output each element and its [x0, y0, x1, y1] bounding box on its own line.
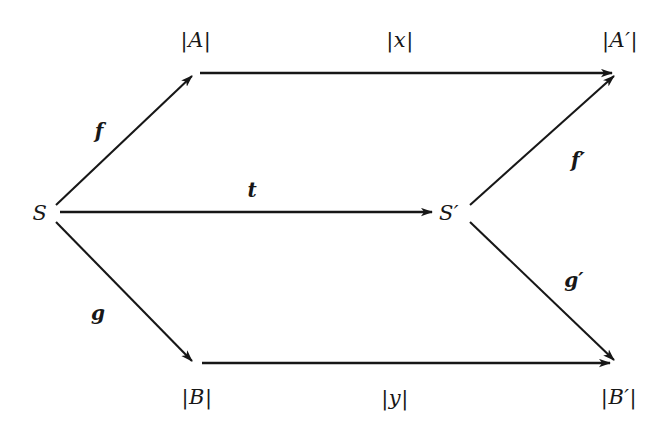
node-B: |B| [181, 387, 212, 408]
node-B-prime: |B′| [601, 387, 637, 408]
edge-label-x: |x| [386, 30, 414, 51]
node-A-prime: |A′| [602, 30, 638, 51]
edge-label-f-prime: f′ [571, 150, 585, 170]
edge-label-f: f [95, 121, 104, 141]
commutative-diagram: S |A| |B| S′ |A′| |B′| f t g |x| |y| f′ … [0, 0, 668, 435]
diagram-edges-layer [0, 0, 668, 435]
edge-label-t: t [247, 180, 256, 200]
edge-g-arrow [56, 222, 192, 361]
edge-f-prime-arrow [470, 76, 614, 205]
node-S: S [33, 203, 48, 224]
edge-f-arrow [56, 76, 192, 205]
edge-label-y: |y| [381, 388, 409, 409]
edge-label-g-prime: g′ [564, 270, 583, 290]
node-S-prime: S′ [439, 203, 459, 224]
edge-label-g: g [91, 303, 105, 323]
edge-g-prime-arrow [470, 222, 614, 360]
node-A: |A| [181, 30, 212, 51]
